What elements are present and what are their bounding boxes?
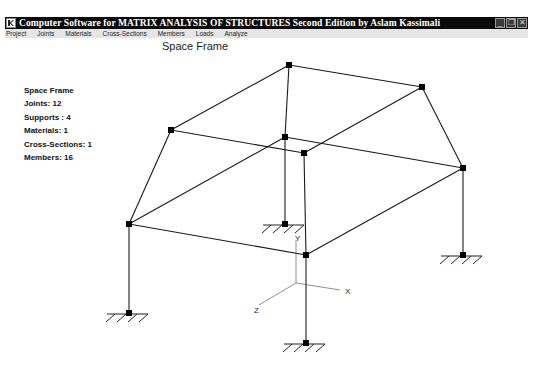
joint-9[interactable] <box>303 252 309 258</box>
joint-6[interactable] <box>460 165 466 171</box>
member-11[interactable] <box>304 153 306 255</box>
joint-4[interactable] <box>282 134 288 140</box>
joint-3[interactable] <box>168 127 174 133</box>
member-13[interactable] <box>306 168 463 255</box>
member-3[interactable] <box>285 65 289 137</box>
member-1[interactable] <box>289 65 422 87</box>
members-layer <box>129 65 463 343</box>
z-axis-label: Z <box>254 306 259 315</box>
joint-10[interactable] <box>460 252 466 258</box>
joint-2[interactable] <box>419 84 425 90</box>
member-8[interactable] <box>285 137 463 168</box>
member-6[interactable] <box>171 130 304 153</box>
joint-8[interactable] <box>282 221 288 227</box>
x-axis-line <box>296 283 340 290</box>
member-12[interactable] <box>129 224 306 255</box>
member-5[interactable] <box>422 87 463 168</box>
joint-1[interactable] <box>286 62 292 68</box>
x-axis-label: X <box>345 287 351 296</box>
y-axis-label: Y <box>295 234 301 243</box>
member-9[interactable] <box>129 137 285 224</box>
supports-layer <box>106 225 482 352</box>
global-axes: Y X Z <box>254 234 351 315</box>
z-axis-line <box>259 283 296 305</box>
joint-11[interactable] <box>126 310 132 316</box>
member-7[interactable] <box>129 130 171 224</box>
joint-12[interactable] <box>303 340 309 346</box>
structure-canvas[interactable]: Y X Z <box>0 0 542 366</box>
joint-5[interactable] <box>301 150 307 156</box>
joints-layer <box>126 62 466 346</box>
member-2[interactable] <box>171 65 289 130</box>
joint-7[interactable] <box>126 221 132 227</box>
